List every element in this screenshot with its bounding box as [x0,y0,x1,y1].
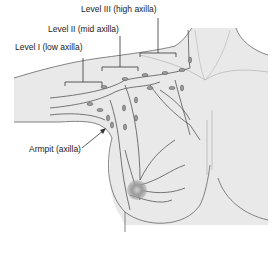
level2-label: Level II (mid axilla) [48,24,119,34]
lymph-node [169,86,175,89]
lymph-node [180,85,183,91]
armpit-label: Armpit (axilla) [29,144,81,154]
breast-lymph-diagram [0,0,279,254]
lymph-node [97,108,103,111]
lymph-node [110,122,113,128]
arrow-head [100,128,106,134]
tumor [127,180,147,200]
lymph-node [134,97,137,103]
lymph-node [122,77,128,80]
level3-label: Level III (high axilla) [81,4,157,14]
level1-label: Level I (low axilla) [15,42,83,52]
lymph-node [147,86,153,89]
lymph-node [162,71,168,74]
armpit-arrow [82,130,104,148]
lymph-node [106,115,109,121]
lymph-node [122,105,125,111]
lymph-node [134,115,137,121]
lymph-node [123,124,126,130]
lymph-node [179,68,185,71]
lymph-node [188,57,191,63]
lymph-node [142,73,148,76]
lymph-node [87,102,93,105]
